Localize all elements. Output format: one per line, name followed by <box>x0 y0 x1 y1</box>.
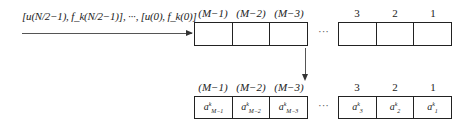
bottom-index: (M−1) <box>194 81 232 93</box>
top-cell <box>376 22 415 46</box>
bottom-index: (M−2) <box>232 81 270 93</box>
bottom-index: (M−3) <box>270 81 308 93</box>
top-index: (M−1) <box>194 7 232 19</box>
top-ellipsis: ··· <box>318 25 329 37</box>
coefficient: akM−2 <box>241 101 261 114</box>
input-sequence-label: [u(N/2−1), f_k(N/2−1)], ···, [u(0), f_k(… <box>22 10 197 22</box>
top-index: (M−2) <box>232 7 270 19</box>
coefficient: ak3 <box>352 101 363 114</box>
top-cell <box>338 22 377 46</box>
coefficient: akM−3 <box>279 101 299 114</box>
transfer-arrow-line <box>305 48 306 76</box>
bottom-index: 2 <box>376 81 414 93</box>
input-arrow-line <box>22 33 192 34</box>
top-index: 2 <box>376 7 414 19</box>
bottom-cell: ak3 <box>338 96 377 119</box>
bottom-cell: akM−3 <box>269 96 308 119</box>
bottom-cell: akM−2 <box>232 96 271 119</box>
bottom-ellipsis: ··· <box>318 99 329 111</box>
top-index: 3 <box>338 7 376 19</box>
top-cell <box>194 22 233 46</box>
top-index: 1 <box>414 7 452 19</box>
bottom-cell: ak2 <box>376 96 415 119</box>
coefficient: ak1 <box>427 101 438 114</box>
top-cell <box>269 22 308 46</box>
input-arrow-head-icon <box>186 30 193 36</box>
transfer-arrow-head-icon <box>302 74 308 81</box>
bottom-cell: ak1 <box>413 96 452 119</box>
coefficient: ak2 <box>390 101 401 114</box>
bottom-cell: akM−1 <box>194 96 233 119</box>
bottom-index: 1 <box>414 81 452 93</box>
coefficient: akM−1 <box>204 101 224 114</box>
top-cell <box>232 22 271 46</box>
bottom-index: 3 <box>338 81 376 93</box>
top-index: (M−3) <box>270 7 308 19</box>
top-cell <box>413 22 452 46</box>
